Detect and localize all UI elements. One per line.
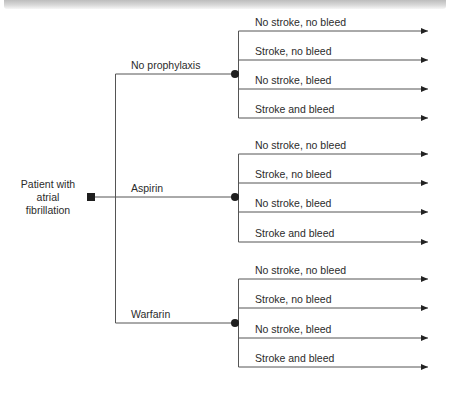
branch-label-no-prophylaxis: No prophylaxis [131, 59, 200, 71]
decision-node-square [87, 193, 95, 201]
outcome-label: Stroke and bleed [255, 352, 334, 364]
outcome-label: No stroke, bleed [255, 323, 331, 335]
chance-node-warfarin [231, 319, 239, 327]
chance-node-aspirin [231, 193, 239, 201]
root-label-line: fibrillation [8, 204, 88, 217]
root-label-line: atrial [8, 191, 88, 204]
outcome-label: No stroke, bleed [255, 74, 331, 86]
branch-label-aspirin: Aspirin [131, 182, 163, 194]
outcome-label: No stroke, no bleed [255, 16, 346, 28]
outcome-label: Stroke, no bleed [255, 293, 331, 305]
branch-label-warfarin: Warfarin [131, 308, 170, 320]
outcome-label: Stroke, no bleed [255, 168, 331, 180]
outcome-label: No stroke, no bleed [255, 264, 346, 276]
root-label-line: Patient with [8, 178, 88, 191]
outcome-label: No stroke, no bleed [255, 139, 346, 151]
outcome-label: No stroke, bleed [255, 197, 331, 209]
root-label: Patient with atrial fibrillation [8, 178, 88, 217]
chance-node-no-prophylaxis [231, 70, 239, 78]
outcome-label: Stroke and bleed [255, 227, 334, 239]
outcome-label: Stroke, no bleed [255, 45, 331, 57]
outcome-label: Stroke and bleed [255, 103, 334, 115]
